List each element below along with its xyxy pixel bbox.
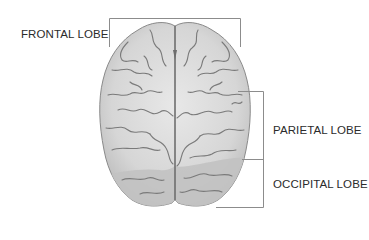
frontal-lobe-label: FRONTAL LOBE	[21, 28, 108, 40]
parietal-lobe-label: PARIETAL LOBE	[273, 124, 362, 136]
brain-illustration	[95, 23, 255, 215]
occipital-lobe-label: OCCIPITAL LOBE	[273, 178, 368, 190]
